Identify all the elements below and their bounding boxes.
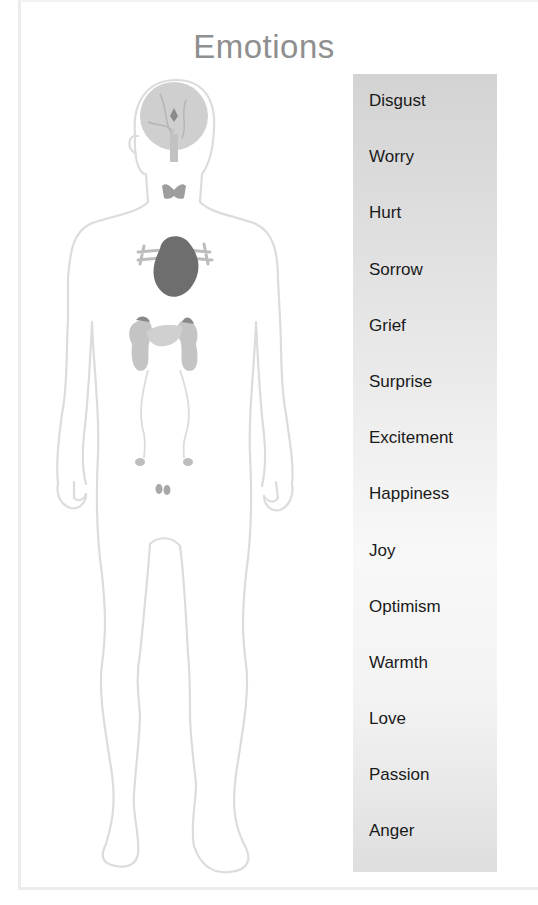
ovary-icon xyxy=(183,458,193,466)
emotion-item-excitement: Excitement xyxy=(369,423,453,479)
emotion-item-love: Love xyxy=(369,704,453,760)
emotion-item-anger: Anger xyxy=(369,816,453,872)
emotion-item-surprise: Surprise xyxy=(369,367,453,423)
emotion-item-grief: Grief xyxy=(369,311,453,367)
kidneys-icon xyxy=(129,316,197,370)
emotions-panel: Disgust Worry Hurt Sorrow Grief Surprise… xyxy=(353,74,497,872)
emotion-item-joy: Joy xyxy=(369,536,453,592)
brain-icon xyxy=(140,82,208,162)
emotion-item-warmth: Warmth xyxy=(369,648,453,704)
page-title: Emotions xyxy=(0,28,528,66)
thyroid-icon xyxy=(162,184,186,198)
heart-icon xyxy=(138,236,212,297)
human-body-figure xyxy=(40,74,330,894)
emotion-item-sorrow: Sorrow xyxy=(369,255,453,311)
emotion-item-hurt: Hurt xyxy=(369,198,453,254)
emotion-item-happiness: Happiness xyxy=(369,479,453,535)
emotion-item-worry: Worry xyxy=(369,142,453,198)
emotion-item-disgust: Disgust xyxy=(369,86,453,142)
emotion-item-passion: Passion xyxy=(369,760,453,816)
emotions-list: Disgust Worry Hurt Sorrow Grief Surprise… xyxy=(369,86,453,873)
emotion-item-optimism: Optimism xyxy=(369,592,453,648)
testis-icon xyxy=(156,484,163,494)
testis-icon xyxy=(164,485,171,495)
ovary-icon xyxy=(135,458,145,466)
